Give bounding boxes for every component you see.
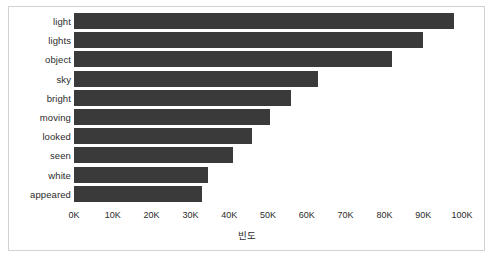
bar [74,109,270,125]
bar [74,32,423,48]
bar-category-label: moving [9,112,71,123]
bar-row: light [9,13,484,29]
x-tick-label: 20K [144,210,160,220]
bar-category-label: appeared [9,188,71,199]
bar-row: looked [9,128,484,144]
bar-category-label: looked [9,131,71,142]
x-tick-label: 0K [68,210,79,220]
bar [74,51,392,67]
bar-row: bright [9,90,484,106]
bar-row: white [9,167,484,183]
bar-category-label: sky [9,73,71,84]
x-tick-label: 50K [260,210,276,220]
bar [74,167,208,183]
x-tick-label: 80K [376,210,392,220]
x-tick-label: 10K [105,210,121,220]
bar-category-label: object [9,54,71,65]
x-tick-label: 70K [338,210,354,220]
bar [74,186,202,202]
bar-row: object [9,51,484,67]
bar-category-label: bright [9,92,71,103]
bar-row: lights [9,32,484,48]
bar [74,90,291,106]
bar-row: sky [9,71,484,87]
x-tick-label: 100K [451,210,472,220]
chart-frame: lightlightsobjectskybrightmovinglookedse… [8,6,485,251]
x-axis-title: 빈도 [9,228,484,242]
x-tick-label: 30K [182,210,198,220]
bar-row: appeared [9,186,484,202]
bar [74,71,318,87]
bar-category-label: white [9,169,71,180]
x-axis: 0K10K20K30K40K50K60K70K80K90K100K [9,206,484,226]
bar-category-label: seen [9,150,71,161]
bar-category-label: lights [9,35,71,46]
bar-row: moving [9,109,484,125]
x-tick-label: 60K [299,210,315,220]
x-tick-label: 40K [221,210,237,220]
bar-row: seen [9,147,484,163]
bar [74,147,233,163]
bar-category-label: light [9,16,71,27]
bar [74,128,252,144]
bar [74,13,454,29]
x-tick-label: 90K [415,210,431,220]
